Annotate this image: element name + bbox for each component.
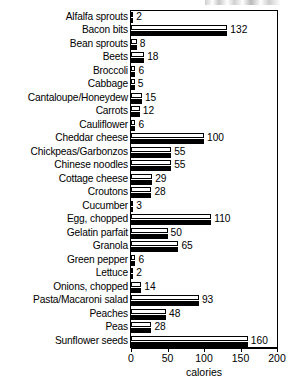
bar-value-label: 14: [144, 280, 155, 294]
bar-upper-outline: [131, 12, 133, 17]
bar-lower-solid: [131, 45, 137, 50]
bar-value-label: 8: [140, 37, 146, 51]
category-label: Chickpeas/Garbonzos: [0, 145, 128, 159]
bar-upper-outline: [131, 295, 199, 300]
bar-pair: [131, 253, 135, 267]
bar-upper-outline: [131, 241, 178, 246]
table-row: Cottage cheese29: [0, 172, 291, 186]
bar-pair: [131, 24, 227, 38]
bar-lower-solid: [131, 234, 168, 239]
bar-upper-outline: [131, 201, 133, 206]
bar-lower-solid: [131, 288, 141, 293]
bar-upper-outline: [131, 174, 152, 179]
bar-value-label: 160: [251, 334, 268, 348]
table-row: Cantaloupe/Honeydew15: [0, 91, 291, 105]
bar-pair: [131, 280, 141, 294]
bar-lower-solid: [131, 315, 166, 320]
category-label: Bean sprouts: [0, 37, 128, 51]
table-row: Granola65: [0, 240, 291, 254]
table-row: Lettuce2: [0, 267, 291, 281]
bar-value-label: 55: [174, 145, 185, 159]
bar-lower-solid: [131, 31, 227, 36]
x-tick-label: 150: [226, 352, 256, 364]
bar-pair: [131, 199, 133, 213]
category-label: Cauliflower: [0, 118, 128, 132]
bar-value-label: 132: [230, 23, 247, 37]
category-label: Egg, chopped: [0, 212, 128, 226]
bar-lower-solid: [131, 18, 133, 23]
bar-lower-solid: [131, 247, 178, 252]
bar-upper-outline: [131, 309, 166, 314]
table-row: Gelatin parfait50: [0, 226, 291, 240]
table-row: Onions, chopped14: [0, 280, 291, 294]
bar-value-label: 93: [202, 293, 213, 307]
x-tick-label: 200: [262, 352, 291, 364]
bar-lower-solid: [131, 85, 135, 90]
bar-upper-outline: [131, 336, 248, 341]
bar-rows-container: Alfalfa sprouts2Bacon bits132Bean sprout…: [0, 10, 291, 348]
bar-lower-solid: [131, 112, 140, 117]
table-row: Croutons28: [0, 186, 291, 200]
bar-upper-outline: [131, 25, 227, 30]
category-label: Carrots: [0, 104, 128, 118]
category-label: Cabbage: [0, 77, 128, 91]
table-row: Egg, chopped110: [0, 213, 291, 227]
category-label: Onions, chopped: [0, 280, 128, 294]
category-label: Pasta/Macaroni salad: [0, 293, 128, 307]
bar-value-label: 55: [174, 158, 185, 172]
bar-pair: [131, 64, 135, 78]
x-tick-label: 50: [153, 352, 183, 364]
bar-lower-solid: [131, 58, 144, 63]
bar-value-label: 6: [138, 118, 144, 132]
bar-pair: [131, 321, 151, 335]
bar-value-label: 18: [147, 50, 158, 64]
category-label: Beets: [0, 50, 128, 64]
calorie-bar-chart: Alfalfa sprouts2Bacon bits132Bean sprout…: [0, 0, 291, 385]
category-label: Alfalfa sprouts: [0, 10, 128, 24]
bar-upper-outline: [131, 106, 140, 111]
bar-pair: [131, 132, 204, 146]
category-label: Peas: [0, 320, 128, 334]
bar-upper-outline: [131, 268, 133, 273]
bar-upper-outline: [131, 147, 171, 152]
bar-value-label: 28: [154, 185, 165, 199]
bar-lower-solid: [131, 166, 171, 171]
bar-lower-solid: [131, 328, 151, 333]
bar-value-label: 12: [143, 104, 154, 118]
table-row: Chinese noodles55: [0, 159, 291, 173]
bar-pair: [131, 105, 140, 119]
bar-pair: [131, 145, 171, 159]
bar-value-label: 50: [171, 226, 182, 240]
bar-pair: [131, 159, 171, 173]
bar-pair: [131, 267, 133, 281]
bar-lower-solid: [131, 301, 199, 306]
bar-lower-solid: [131, 220, 211, 225]
bar-upper-outline: [131, 322, 151, 327]
category-label: Lettuce: [0, 266, 128, 280]
bar-upper-outline: [131, 79, 135, 84]
table-row: Alfalfa sprouts2: [0, 10, 291, 24]
bar-pair: [131, 78, 135, 92]
category-label: Green pepper: [0, 253, 128, 267]
table-row: Chickpeas/Garbonzos55: [0, 145, 291, 159]
table-row: Bean sprouts8: [0, 37, 291, 51]
bar-upper-outline: [131, 120, 135, 125]
bar-upper-outline: [131, 39, 137, 44]
bar-value-label: 15: [145, 91, 156, 105]
bar-pair: [131, 240, 178, 254]
x-tick-label: 0: [116, 352, 146, 364]
bar-value-label: 5: [138, 77, 144, 91]
x-axis-title: calories: [131, 366, 277, 378]
bar-upper-outline: [131, 133, 204, 138]
bar-lower-solid: [131, 139, 204, 144]
bar-lower-solid: [131, 342, 248, 347]
bar-value-label: 110: [214, 212, 230, 226]
bar-pair: [131, 226, 168, 240]
bar-pair: [131, 334, 248, 348]
bar-upper-outline: [131, 187, 151, 192]
bar-value-label: 65: [181, 239, 192, 253]
bar-lower-solid: [131, 274, 133, 279]
table-row: Broccoli6: [0, 64, 291, 78]
category-label: Cheddar cheese: [0, 131, 128, 145]
bar-value-label: 2: [136, 266, 142, 280]
